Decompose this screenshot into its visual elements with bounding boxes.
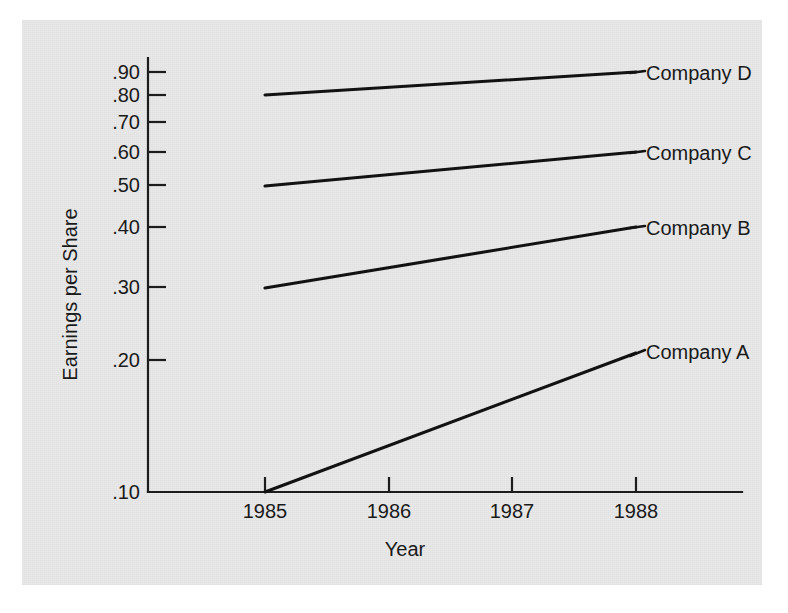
x-tick-label-1988: 1988 [591,500,681,523]
series-label-company-c: Company C [646,142,752,165]
y-tick-label-0.70: .70 [84,111,140,134]
series-line-company-d [265,72,636,95]
y-tick-label-wrap-0.90: .90 [84,61,140,83]
y-tick-label-wrap-0.70: .70 [84,111,140,133]
y-tick-label-0.10: .10 [84,481,140,504]
y-tick-label-0.60: .60 [84,141,140,164]
x-tick-label-1986: 1986 [344,500,434,523]
y-axis-ticks [148,72,166,360]
x-tick-label-1987: 1987 [467,500,557,523]
y-tick-label-wrap-0.60: .60 [84,141,140,163]
y-tick-label-wrap-0.50: .50 [84,174,140,196]
y-axis-title: Earnings per Share [59,195,82,395]
y-tick-label-0.20: .20 [84,349,140,372]
x-axis-title: Year [345,538,465,561]
series-line-company-b [265,227,636,288]
x-tick-label-1985: 1985 [220,500,310,523]
y-tick-label-0.50: .50 [84,174,140,197]
y-tick-label-0.90: .90 [84,61,140,84]
y-tick-label-wrap-0.80: .80 [84,84,140,106]
series-label-company-d: Company D [646,62,752,85]
y-tick-label-wrap-0.20: .20 [84,349,140,371]
y-tick-label-0.40: .40 [84,216,140,239]
x-axis-ticks [265,477,636,492]
y-tick-label-wrap-0.10: .10 [84,481,140,503]
y-tick-label-wrap-0.40: .40 [84,216,140,238]
series-line-company-a [265,353,636,492]
y-tick-label-0.80: .80 [84,84,140,107]
series-line-company-c [265,152,636,186]
series-label-company-b: Company B [646,217,751,240]
y-tick-label-0.30: .30 [84,276,140,299]
y-tick-label-wrap-0.30: .30 [84,276,140,298]
series-label-company-a: Company A [646,341,749,364]
chart-page: .90 .80 .70 .60 .50 .40 .30 .20 .10 1985… [0,0,788,613]
